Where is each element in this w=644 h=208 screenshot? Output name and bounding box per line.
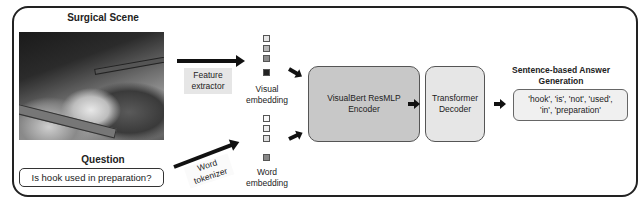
answer-text-line2: 'in', 'preparation' [528, 105, 612, 116]
word-embedding-line2: embedding [240, 178, 294, 189]
feature-arrow-icon [177, 59, 237, 63]
visual-embedding-square [263, 35, 270, 42]
answer-title-line2: Generation [506, 76, 616, 87]
encoder-line2: Encoder [327, 104, 401, 115]
surgical-instrument-1 [19, 102, 117, 138]
visual-embedding-line2: embedding [240, 95, 294, 106]
visual-embedding-square [263, 69, 270, 76]
answer-title-line1: Sentence-based Answer [506, 65, 616, 76]
word-embedding-label: Word embedding [240, 167, 294, 189]
answer-generation-title: Sentence-based Answer Generation [506, 65, 616, 87]
feature-extractor-line1: Feature [184, 70, 232, 81]
decoder-line2: Decoder [432, 104, 478, 115]
feature-extractor-line2: extractor [184, 81, 232, 92]
surgical-scene-title: Surgical Scene [43, 12, 163, 23]
question-title: Question [43, 154, 163, 165]
word-embedding-square [263, 135, 270, 142]
visual-embedding-square [263, 55, 270, 62]
visual-embedding-line1: Visual [240, 84, 294, 95]
question-box: Is hook used in preparation? [19, 168, 164, 187]
surgical-instrument-2 [94, 55, 164, 75]
word-embedding-square [263, 115, 270, 122]
decoder-to-answer-arrow-icon [494, 102, 501, 106]
surgical-scene-image [19, 32, 164, 140]
answer-box: 'hook', 'is', 'not', 'used', 'in', 'prep… [513, 89, 628, 121]
visualbert-resmlp-encoder: VisualBert ResMLP Encoder [308, 66, 420, 142]
encoder-line1: VisualBert ResMLP [327, 93, 401, 104]
visual-embedding-label: Visual embedding [240, 84, 294, 106]
answer-text-line1: 'hook', 'is', 'not', 'used', [528, 94, 612, 105]
decoder-line1: Transformer [432, 93, 478, 104]
visual-embedding-square [263, 45, 270, 52]
encoder-to-decoder-arrow-icon [408, 102, 415, 106]
transformer-decoder: Transformer Decoder [425, 66, 485, 142]
word-embedding-square [263, 154, 270, 161]
feature-extractor-label: Feature extractor [184, 68, 232, 94]
word-embedding-line1: Word [240, 167, 294, 178]
question-text: Is hook used in preparation? [32, 172, 152, 183]
word-embedding-square [263, 125, 270, 132]
